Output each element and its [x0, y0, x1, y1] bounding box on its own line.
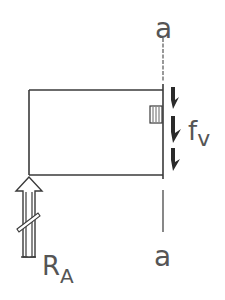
hatched-block-icon: [150, 106, 162, 123]
shear-arrow-icon: [171, 87, 179, 109]
shear-force-label: fv: [188, 116, 210, 151]
reaction-subscript: A: [60, 264, 74, 288]
shear-force-subscript: v: [197, 126, 210, 151]
shear-arrow-icon: [171, 116, 181, 143]
section-label-top: a: [155, 12, 172, 45]
beam-segment: [29, 84, 163, 179]
shear-arrow-icon: [171, 148, 180, 171]
reaction-arrow-icon: [16, 177, 42, 257]
reaction-label: RA: [42, 251, 74, 288]
section-label-bottom: a: [154, 240, 171, 273]
reaction-symbol: R: [42, 251, 60, 281]
free-body-diagram: a a fv RA: [0, 0, 225, 300]
